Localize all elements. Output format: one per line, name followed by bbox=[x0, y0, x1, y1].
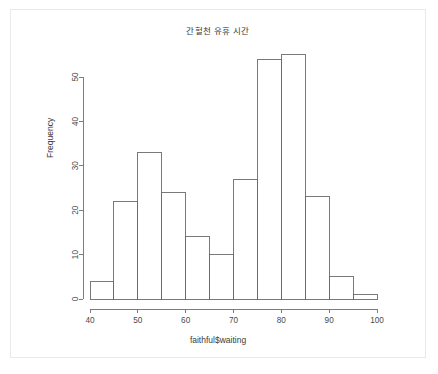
y-axis-tick-label: 40 bbox=[71, 116, 80, 126]
histogram-chart: 01020304050405060708090100 bbox=[11, 10, 427, 359]
x-axis-tick-label: 40 bbox=[85, 316, 95, 325]
histogram-bar bbox=[305, 197, 329, 299]
histogram-bar bbox=[234, 179, 258, 299]
histogram-bar bbox=[114, 201, 138, 299]
y-axis-tick-label: 30 bbox=[71, 161, 80, 171]
histogram-bar bbox=[257, 59, 281, 299]
x-axis-label: faithful$waiting bbox=[11, 335, 425, 345]
x-axis-tick-label: 70 bbox=[229, 316, 239, 325]
y-axis-tick-label: 50 bbox=[71, 72, 80, 82]
x-axis-tick-label: 60 bbox=[181, 316, 191, 325]
x-axis-tick-label: 90 bbox=[325, 316, 335, 325]
histogram-bar bbox=[90, 281, 114, 299]
x-axis-tick-label: 80 bbox=[277, 316, 287, 325]
y-axis-tick-label: 10 bbox=[71, 250, 80, 260]
histogram-bar bbox=[353, 295, 377, 299]
plot-surface: 간헐천 유휴 시간 Frequency 01020304050405060708… bbox=[11, 10, 425, 357]
x-axis-tick-label: 50 bbox=[133, 316, 143, 325]
histogram-bar bbox=[329, 277, 353, 299]
y-axis-tick-label: 20 bbox=[71, 205, 80, 215]
histogram-bar bbox=[281, 55, 305, 299]
histogram-bar bbox=[162, 192, 186, 299]
y-axis-tick-label: 0 bbox=[71, 296, 80, 301]
histogram-bar bbox=[186, 237, 210, 299]
x-axis-tick-label: 100 bbox=[370, 316, 384, 325]
histogram-bar bbox=[138, 152, 162, 299]
histogram-bar bbox=[210, 255, 234, 299]
plot-panel: 간헐천 유휴 시간 Frequency 01020304050405060708… bbox=[10, 9, 426, 358]
